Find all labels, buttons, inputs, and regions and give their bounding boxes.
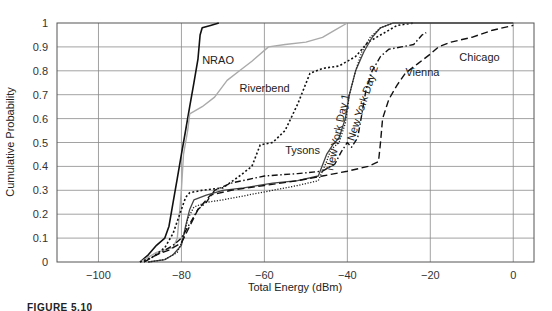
- series-labels: NRAORiverbendTysonsNew York Day 1New Yor…: [202, 51, 500, 171]
- series-label-tysons: Tysons: [285, 144, 320, 156]
- x-axis-ticks: −100−80−60−40−200: [86, 269, 516, 281]
- series-label-riverbend: Riverbend: [240, 82, 290, 94]
- y-tick-label: 0.5: [33, 137, 48, 149]
- x-tick-label: −80: [172, 269, 191, 281]
- y-tick-label: 0.1: [33, 232, 48, 244]
- y-axis-ticks: 00.10.20.30.40.50.60.70.80.91: [33, 17, 48, 268]
- y-tick-label: 1: [42, 17, 48, 29]
- y-tick-label: 0.8: [33, 65, 48, 77]
- x-tick-label: 0: [510, 269, 516, 281]
- x-tick-label: −40: [338, 269, 357, 281]
- y-tick-label: 0: [42, 256, 48, 268]
- y-tick-label: 0.4: [33, 160, 48, 172]
- x-tick-label: −20: [421, 269, 440, 281]
- y-tick-label: 0.9: [33, 41, 48, 53]
- series-label-chicago: Chicago: [459, 51, 499, 63]
- figure-caption: FIGURE 5.10: [27, 302, 93, 311]
- y-tick-label: 0.3: [33, 184, 48, 196]
- y-tick-label: 0.2: [33, 208, 48, 220]
- series-label-vienna: Vienna: [405, 66, 440, 78]
- x-tick-label: −100: [86, 269, 111, 281]
- series-label-new-york-day-2: New York Day 2: [344, 64, 380, 142]
- cdf-chart: NRAORiverbendTysonsNew York Day 1New Yor…: [0, 0, 552, 311]
- y-tick-label: 0.6: [33, 113, 48, 125]
- y-tick-label: 0.7: [33, 89, 48, 101]
- x-axis-label: Total Energy (dBm): [248, 281, 342, 293]
- y-axis-label: Cumulative Probability: [4, 87, 16, 197]
- x-tick-label: −60: [255, 269, 274, 281]
- series-label-nrao: NRAO: [202, 54, 234, 66]
